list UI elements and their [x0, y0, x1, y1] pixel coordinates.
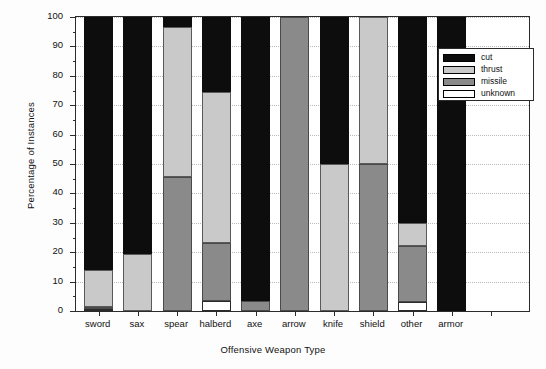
y-axis-tick-major: [70, 76, 76, 77]
x-axis-tick: [373, 311, 374, 316]
y-axis-tick-minor: [73, 267, 76, 268]
y-axis-tick-major: [70, 193, 76, 194]
legend-item-unknown[interactable]: unknown: [443, 88, 529, 99]
bar-segment-knife-cut[interactable]: [320, 17, 349, 164]
legend-swatch-thrust-icon: [443, 66, 475, 74]
bar-segment-other-unknown[interactable]: [398, 302, 427, 311]
y-axis-tick-major: [70, 223, 76, 224]
y-axis-tick-minor: [73, 179, 76, 180]
bar-segment-halberd-unknown[interactable]: [202, 301, 231, 311]
bar-sax[interactable]: [123, 17, 152, 311]
x-axis-tick: [491, 312, 492, 316]
x-axis-tick: [295, 311, 296, 316]
x-axis-title: Offensive Weapon Type: [0, 344, 546, 355]
bar-segment-other-missile[interactable]: [398, 246, 427, 302]
y-axis-tick-major: [70, 311, 76, 312]
y-axis-tick-minor: [73, 208, 76, 209]
x-axis-tick: [99, 311, 100, 316]
bar-shield[interactable]: [359, 17, 388, 311]
y-axis-tick-minor: [73, 296, 76, 297]
bar-segment-other-thrust[interactable]: [398, 223, 427, 247]
y-axis-tick-label: 10: [33, 275, 63, 286]
chart-figure: Percentage of Instances Offensive Weapon…: [0, 0, 546, 369]
bar-segment-sword-cut[interactable]: [84, 17, 113, 270]
y-axis-tick-major: [70, 282, 76, 283]
x-axis-tick: [138, 311, 139, 316]
legend-swatch-cut-icon: [443, 54, 475, 62]
chart-legend: cutthrustmissileunknown: [438, 48, 534, 101]
bar-axe[interactable]: [241, 17, 270, 311]
y-axis-tick-minor: [73, 91, 76, 92]
y-axis-tick-minor: [73, 238, 76, 239]
y-axis-tick-label: 40: [33, 186, 63, 197]
bar-segment-axe-missile[interactable]: [241, 301, 270, 311]
y-axis-tick-label: 80: [33, 69, 63, 80]
legend-item-missile[interactable]: missile: [443, 76, 529, 87]
y-axis-tick-label: 60: [33, 128, 63, 139]
bar-segment-halberd-missile[interactable]: [202, 243, 231, 300]
bar-segment-spear-cut[interactable]: [163, 17, 192, 27]
bar-spear[interactable]: [163, 17, 192, 311]
bar-segment-sword-thrust[interactable]: [84, 270, 113, 308]
legend-label: missile: [481, 77, 507, 86]
y-axis-tick-major: [70, 135, 76, 136]
legend-swatch-unknown-icon: [443, 90, 475, 98]
x-axis-tick: [256, 311, 257, 316]
y-axis-tick-label: 50: [33, 157, 63, 168]
bar-segment-knife-thrust[interactable]: [320, 164, 349, 311]
bar-segment-shield-thrust[interactable]: [359, 17, 388, 164]
y-axis-tick-label: 30: [33, 216, 63, 227]
bar-segment-sax-cut[interactable]: [123, 17, 152, 254]
bar-segment-other-cut[interactable]: [398, 17, 427, 223]
bar-knife[interactable]: [320, 17, 349, 311]
legend-label: thrust: [481, 65, 502, 74]
x-axis-tick: [452, 311, 453, 316]
y-axis-tick-major: [70, 252, 76, 253]
y-axis-tick-major: [70, 17, 76, 18]
bar-segment-arrow-missile[interactable]: [280, 17, 309, 311]
bar-segment-axe-cut[interactable]: [241, 17, 270, 301]
y-axis-tick-label: 100: [33, 10, 63, 21]
bar-segment-halberd-thrust[interactable]: [202, 92, 231, 243]
bar-arrow[interactable]: [280, 17, 309, 311]
y-axis-tick-major: [70, 105, 76, 106]
y-axis-tick-minor: [73, 149, 76, 150]
legend-swatch-missile-icon: [443, 78, 475, 86]
bar-segment-spear-missile[interactable]: [163, 177, 192, 311]
y-axis-tick-minor: [73, 120, 76, 121]
x-axis-tick: [216, 311, 217, 316]
legend-label: cut: [481, 53, 492, 62]
y-axis-tick-major: [70, 46, 76, 47]
legend-item-cut[interactable]: cut: [443, 52, 529, 63]
bar-segment-spear-thrust[interactable]: [163, 27, 192, 177]
legend-label: unknown: [481, 89, 515, 98]
bar-segment-shield-missile[interactable]: [359, 164, 388, 311]
y-axis-tick-minor: [73, 61, 76, 62]
bar-segment-sax-thrust[interactable]: [123, 254, 152, 311]
x-axis-tick: [413, 311, 414, 316]
x-axis-tick: [334, 311, 335, 316]
y-axis-tick-label: 90: [33, 39, 63, 50]
x-axis-tick-label-armor: armor: [411, 318, 491, 329]
bar-sword[interactable]: [84, 17, 113, 311]
bar-other[interactable]: [398, 17, 427, 311]
bar-halberd[interactable]: [202, 17, 231, 311]
bar-segment-halberd-cut[interactable]: [202, 17, 231, 92]
x-axis-tick: [177, 311, 178, 316]
y-axis-tick-label: 20: [33, 245, 63, 256]
y-axis-tick-label: 70: [33, 98, 63, 109]
y-axis-tick-minor: [73, 32, 76, 33]
legend-item-thrust[interactable]: thrust: [443, 64, 529, 75]
y-axis-tick-label: 0: [33, 304, 63, 315]
y-axis-tick-major: [70, 164, 76, 165]
